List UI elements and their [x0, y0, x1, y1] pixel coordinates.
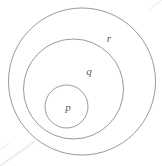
diagram-background	[0, 0, 162, 166]
diagram-canvas: r q p	[0, 0, 162, 166]
set-label-q: q	[86, 65, 92, 77]
nested-circles-diagram: r q p	[0, 0, 162, 166]
set-label-r: r	[107, 32, 112, 44]
set-label-p: p	[64, 101, 71, 113]
